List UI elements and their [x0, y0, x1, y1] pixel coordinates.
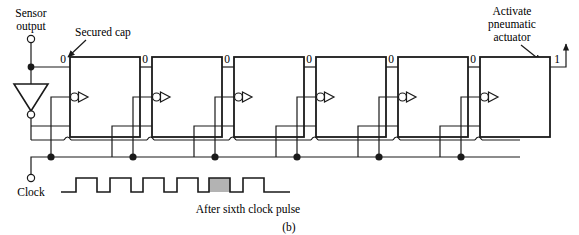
clock-bus [31, 157, 520, 175]
clock-input-terminal [27, 174, 34, 181]
clock-bus-dot-4 [293, 153, 300, 160]
secured-cap-label: Secured cap [75, 26, 131, 39]
stage-value-6: 0 [470, 53, 476, 65]
stage-value-2: 0 [142, 53, 148, 65]
activate-label-line1: Activate [493, 5, 532, 17]
stage-value-3: 0 [224, 53, 230, 65]
activate-label-line2: pneumatic [488, 18, 536, 31]
clock-bus-dot-3 [211, 153, 218, 160]
clock-bus-dot-6 [457, 153, 464, 160]
clock-waveform-path [61, 178, 290, 192]
inverter-triangle [14, 84, 48, 111]
clock-input-bubble-5 [399, 93, 407, 101]
clock-input-bubble-2 [153, 93, 161, 101]
clock-bus-dot-5 [375, 153, 382, 160]
flip-flop-stage-1: 0 [31, 53, 140, 157]
clock-bus-dot-2 [129, 153, 136, 160]
stage-value-5: 0 [388, 53, 394, 65]
clock-lead-1 [51, 97, 71, 122]
activate-label-line3: actuator [493, 31, 530, 43]
stage-value-4: 0 [306, 53, 312, 65]
output-value: 1 [554, 53, 560, 65]
clock-input-bubble-4 [317, 93, 325, 101]
clock-input-bubble-6 [481, 93, 489, 101]
stage-value-1: 0 [60, 53, 66, 65]
shift-register-figure: Sensor output Secured cap Activate pneum… [0, 0, 579, 235]
highlighted-pulse [209, 178, 230, 192]
clock-bus-dot-1 [47, 153, 54, 160]
clock-label: Clock [17, 186, 45, 198]
secured-cap-arrow [68, 40, 86, 57]
clock-input-bubble-1 [71, 93, 79, 101]
sensor-output-label-line2: output [16, 20, 46, 33]
figure-caption: (b) [282, 221, 296, 234]
clock-input-bubble-3 [235, 93, 243, 101]
clock-waveform [61, 178, 290, 192]
sensor-output-terminal [27, 35, 34, 42]
inverter-output-bubble [27, 111, 34, 118]
waveform-caption: After sixth clock pulse [196, 203, 300, 216]
sensor-output-label-line1: Sensor [15, 7, 46, 19]
